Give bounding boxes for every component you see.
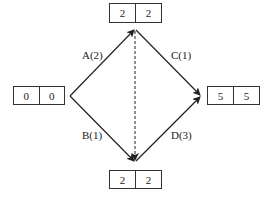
activity-c-arrow [136,30,200,95]
node-end: 5 5 [207,86,260,105]
node-start-latest: 0 [39,87,65,104]
node-bottom-latest: 2 [135,171,161,188]
node-end-latest: 5 [233,87,259,104]
node-end-earliest: 5 [208,87,233,104]
node-bottom: 2 2 [109,170,162,189]
activity-a-arrow [70,30,134,96]
node-start-earliest: 0 [14,87,39,104]
node-start: 0 0 [13,86,65,105]
activity-a-label: A(2) [82,49,103,61]
node-top: 2 2 [109,3,162,23]
node-bottom-earliest: 2 [110,171,135,188]
node-top-latest: 2 [135,4,161,22]
node-top-earliest: 2 [110,4,135,22]
activity-b-label: B(1) [82,129,102,141]
activity-c-label: C(1) [171,49,191,61]
activity-d-label: D(3) [171,129,192,141]
